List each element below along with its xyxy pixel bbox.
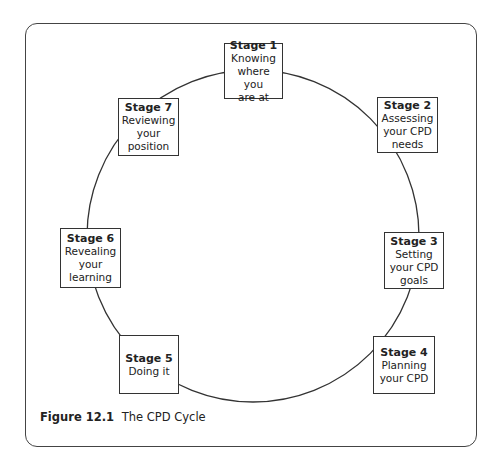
stage-6-title: Stage 6 [67,232,114,245]
stage-1-title: Stage 1 [230,39,277,52]
stage-2-box: Stage 2 Assessing your CPD needs [377,97,438,153]
stage-4-desc: Planning your CPD [380,359,429,385]
stage-7-title: Stage 7 [125,101,172,114]
stage-5-title: Stage 5 [125,352,172,365]
stage-1-desc: Knowing where you are at [227,52,280,104]
figure-number: Figure 12.1 [40,410,114,424]
stage-5-box: Stage 5 Doing it [119,335,179,394]
stage-6-box: Stage 6 Revealing your learning [60,228,121,288]
stage-7-box: Stage 7 Reviewing your position [118,98,179,156]
stage-4-title: Stage 4 [380,346,427,359]
stage-1-box: Stage 1 Knowing where you are at [224,43,283,99]
stage-3-desc: Setting your CPD goals [390,248,439,287]
stage-2-title: Stage 2 [384,99,431,112]
stage-3-box: Stage 3 Setting your CPD goals [384,232,444,289]
stage-7-desc: Reviewing your position [122,114,176,153]
stage-2-desc: Assessing your CPD needs [382,112,434,151]
figure-caption: Figure 12.1 The CPD Cycle [40,410,206,424]
stage-6-desc: Revealing your learning [65,245,117,284]
figure-title: The CPD Cycle [122,410,206,424]
stage-4-box: Stage 4 Planning your CPD [373,336,435,394]
stage-3-title: Stage 3 [390,235,437,248]
stage-5-desc: Doing it [128,365,169,378]
